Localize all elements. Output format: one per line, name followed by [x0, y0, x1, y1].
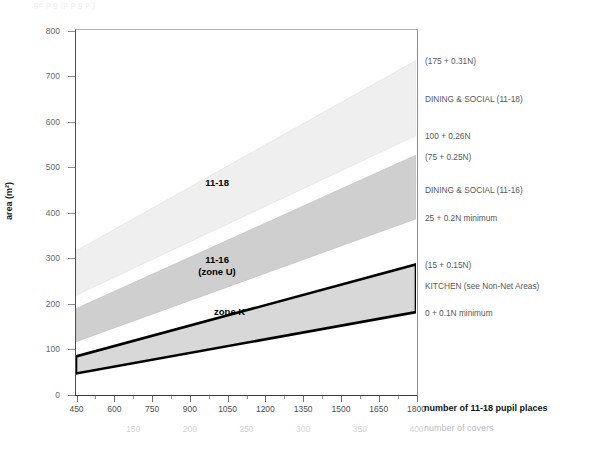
- y-tick-mark: [68, 395, 75, 396]
- annotation-note: (175 + 0.31N): [425, 56, 476, 66]
- y-tick-label: 200: [32, 300, 60, 308]
- y-tick-mark: [68, 258, 75, 259]
- annotation-note: (15 + 0.15N): [425, 260, 471, 270]
- x-tick-label: 1500: [321, 404, 361, 414]
- y-tick-mark: [68, 213, 75, 214]
- x-tick-minor: [247, 396, 248, 399]
- annotation-note: (75 + 0.25N): [425, 152, 471, 162]
- x-tick-mark: [228, 396, 229, 402]
- annotation-note: DINING & SOCIAL (11-18): [425, 94, 523, 104]
- x-tick-minor: [171, 396, 172, 399]
- x-tick-label: 900: [170, 404, 210, 414]
- x-tick-label: 450: [57, 404, 97, 414]
- x-tick-label: 1350: [283, 404, 323, 414]
- y-tick-label: 600: [32, 118, 60, 126]
- y-tick-label: 800: [32, 27, 60, 35]
- x-tick-minor: [360, 396, 361, 399]
- x-tick-mark: [417, 396, 418, 402]
- x-tick-mark: [77, 396, 78, 402]
- x-tick-minor: [133, 396, 134, 399]
- secondary-x-axis-title: number of covers: [424, 423, 494, 433]
- annotation-note: DINING & SOCIAL (11-16): [425, 185, 523, 195]
- annotation-note: 25 + 0.2N minimum: [425, 213, 497, 223]
- x-tick-mark: [265, 396, 266, 402]
- annotation-note: KITCHEN (see Non-Net Areas): [425, 281, 539, 291]
- y-tick-label: 700: [32, 72, 60, 80]
- y-tick-label: 400: [32, 209, 60, 217]
- y-tick-mark: [68, 304, 75, 305]
- y-tick-mark: [68, 349, 75, 350]
- x-tick-minor: [398, 396, 399, 399]
- covers-tick-label: 150: [113, 424, 153, 434]
- y-tick-label: 300: [32, 254, 60, 262]
- y-tick-label: 100: [32, 345, 60, 353]
- x-tick-minor: [209, 396, 210, 399]
- x-tick-mark: [379, 396, 380, 402]
- annotation-note: 0 + 0.1N minimum: [425, 308, 493, 318]
- band-label-11-18: 11-18: [177, 177, 257, 189]
- covers-tick-label: 250: [227, 424, 267, 434]
- y-tick-mark: [68, 31, 75, 32]
- x-tick-minor: [322, 396, 323, 399]
- band-label-11-16-zone-u: 11-16(zone U): [177, 254, 257, 278]
- x-tick-mark: [303, 396, 304, 402]
- x-tick-mark: [341, 396, 342, 402]
- x-tick-mark: [114, 396, 115, 402]
- y-tick-label: 500: [32, 163, 60, 171]
- band-series-svg: [76, 30, 416, 394]
- x-tick-label: 600: [94, 404, 134, 414]
- covers-tick-label: 200: [170, 424, 210, 434]
- y-tick-label: 0: [32, 391, 60, 399]
- x-tick-mark: [190, 396, 191, 402]
- y-tick-mark: [68, 76, 75, 77]
- plot-area: 11-18 11-16(zone U) zone K: [75, 29, 418, 396]
- x-tick-mark: [152, 396, 153, 402]
- x-tick-label: 1650: [359, 404, 399, 414]
- covers-tick-label: 350: [340, 424, 380, 434]
- x-tick-label: 750: [132, 404, 172, 414]
- x-tick-minor: [95, 396, 96, 399]
- chart-figure: ge p g (p p g p ) area (m²) 11-18 11-16(…: [0, 0, 600, 467]
- band-label-zone-k: zone K: [190, 306, 270, 318]
- x-axis-title: number of 11-18 pupil places: [424, 403, 548, 413]
- faint-header-text: ge p g (p p g p ): [34, 0, 414, 12]
- y-tick-mark: [68, 122, 75, 123]
- y-axis-title: area (m²): [4, 182, 14, 220]
- x-tick-label: 1200: [245, 404, 285, 414]
- annotation-note: 100 + 0.26N: [425, 131, 470, 141]
- covers-tick-label: 300: [283, 424, 323, 434]
- x-tick-label: 1050: [208, 404, 248, 414]
- y-tick-mark: [68, 167, 75, 168]
- x-tick-minor: [284, 396, 285, 399]
